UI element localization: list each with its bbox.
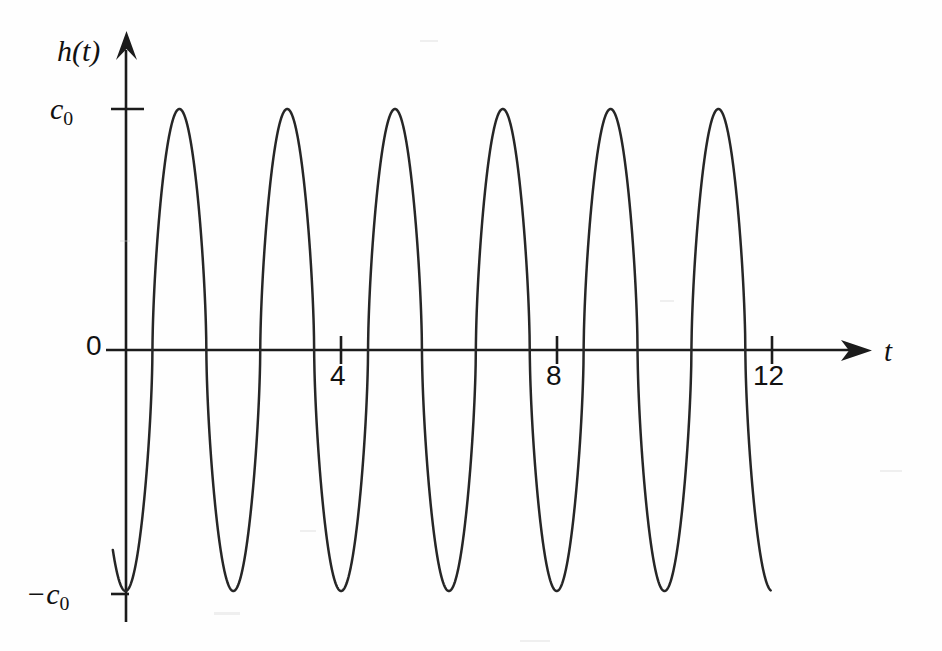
y-tick-label-neg-c0-subscript: 0 — [60, 592, 70, 614]
y-tick-label-zero: 0 — [86, 332, 102, 360]
y-tick-label-c0-subscript: 0 — [63, 107, 73, 129]
y-tick-label-c0-base: c — [50, 92, 63, 125]
y-axis-label: h(t) — [57, 36, 100, 66]
y-tick-label-c0: c0 — [50, 94, 73, 129]
y-tick-label-neg-c0: −c0 — [26, 579, 69, 614]
x-tick-label-12: 12 — [753, 362, 784, 390]
y-tick-label-neg-c0-base: −c — [26, 577, 60, 610]
figure-canvas: h(t) t c0 −c0 0 4 8 12 — [0, 0, 942, 651]
x-tick-label-8: 8 — [546, 362, 562, 390]
x-tick-label-4: 4 — [330, 362, 346, 390]
x-axis-label: t — [884, 337, 892, 366]
plot-area — [0, 0, 942, 651]
